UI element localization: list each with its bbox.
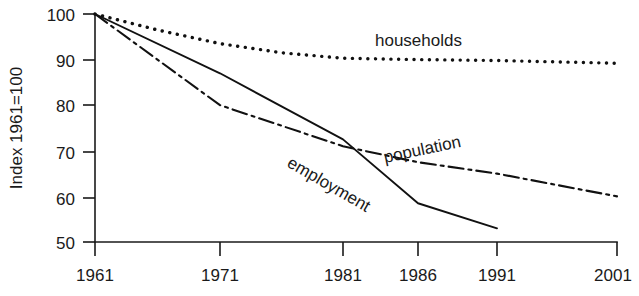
x-tick-label-1991: 1991 bbox=[478, 266, 516, 285]
x-tick-label-1986: 1986 bbox=[399, 266, 437, 285]
y-axis-ticks bbox=[83, 14, 95, 242]
chart-container: 100 90 80 70 60 50 1961 1971 1981 1986 1… bbox=[0, 0, 639, 296]
x-axis-ticks bbox=[95, 242, 617, 256]
x-tick-label-1971: 1971 bbox=[201, 266, 239, 285]
line-chart: 100 90 80 70 60 50 1961 1971 1981 1986 1… bbox=[0, 0, 639, 296]
y-tick-label-70: 70 bbox=[56, 144, 75, 163]
y-axis-title: Index 1961=100 bbox=[7, 67, 26, 189]
y-tick-label-90: 90 bbox=[56, 52, 75, 71]
y-tick-label-50: 50 bbox=[56, 234, 75, 253]
x-axis-tick-labels: 1961 1971 1981 1986 1991 2001 bbox=[76, 266, 632, 285]
y-axis-tick-labels: 100 90 80 70 60 50 bbox=[47, 6, 75, 253]
x-tick-label-2001: 2001 bbox=[594, 266, 632, 285]
series-label-population: population bbox=[382, 132, 463, 167]
series-label-employment: employment bbox=[284, 153, 374, 216]
series-line-households bbox=[95, 14, 617, 63]
series-line-population bbox=[95, 14, 617, 196]
x-tick-label-1961: 1961 bbox=[76, 266, 114, 285]
series-label-households: households bbox=[375, 31, 462, 50]
y-tick-label-60: 60 bbox=[56, 190, 75, 209]
y-tick-label-100: 100 bbox=[47, 6, 75, 25]
x-tick-label-1981: 1981 bbox=[324, 266, 362, 285]
y-tick-label-80: 80 bbox=[56, 97, 75, 116]
